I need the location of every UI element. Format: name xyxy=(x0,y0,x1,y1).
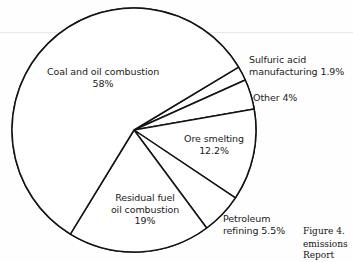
slice-label-value: manufacturing 1.9% xyxy=(249,66,353,78)
slice-label-ore-smelting: Ore smelting 12.2% xyxy=(168,133,260,156)
slice-label-line2: oil combustion xyxy=(85,204,205,216)
slice-label-line1: Sulfuric acid xyxy=(249,54,353,66)
slice-label-line1: Ore smelting xyxy=(168,133,260,145)
slice-label-coal-and-oil-combustion: Coal and oil combustion 58% xyxy=(28,66,178,89)
slice-label-value: 58% xyxy=(28,78,178,90)
figure-caption-number: Figure 4. xyxy=(303,226,345,237)
figure-caption-line2: emissions xyxy=(303,239,348,250)
slice-label-line1: Residual fuel xyxy=(85,192,205,204)
slice-label-line1: Petroleum xyxy=(223,213,323,225)
figure-canvas: Sulfuric acid manufacturing 1.9%Other 4%… xyxy=(0,0,353,262)
slice-label-other: Other 4% xyxy=(253,92,343,104)
slice-label-line1: Coal and oil combustion xyxy=(28,66,178,78)
slice-label-sulfuric-acid-manufacturing: Sulfuric acid manufacturing 1.9% xyxy=(249,54,353,77)
slice-label-residual-fuel-oil-combustion: Residual fuel oil combustion 19% xyxy=(85,192,205,227)
figure-caption-line3: Report xyxy=(303,250,334,261)
figure-caption: Figure 4. emissions Report xyxy=(303,224,353,262)
slice-label-value: 19% xyxy=(85,215,205,227)
slice-label-line1: Other 4% xyxy=(253,92,343,104)
slice-label-value: 12.2% xyxy=(168,145,260,157)
